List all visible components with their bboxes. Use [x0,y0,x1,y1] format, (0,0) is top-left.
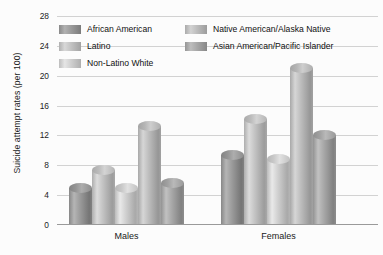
bar-cap [115,183,138,193]
bar-body [267,159,290,225]
legend-label: Asian American/Pacific Islander [213,42,333,51]
y-tick-label: 20 [19,71,49,81]
bar-cap [267,154,290,164]
y-tick-label: 4 [19,190,49,200]
legend-swatch [59,25,81,34]
bar-cap [69,183,92,193]
bar [115,183,138,225]
legend-swatch [185,42,207,51]
bar-body [115,188,138,225]
bar-body [69,188,92,225]
legend-item[interactable]: Asian American/Pacific Islander [185,42,333,51]
x-axis-label-males: Males [82,231,172,241]
y-tick-label: 28 [19,11,49,21]
legend-swatch [59,42,81,51]
bar-cap [92,165,115,175]
legend-swatch [59,59,81,68]
bar [290,63,313,225]
bar-body [138,126,161,225]
chart-legend: African AmericanLatinoNon-Latino WhiteNa… [59,25,359,77]
bar [161,178,184,225]
bar [313,130,336,225]
bar [244,114,267,225]
bar-body [313,135,336,225]
y-tick-label: 0 [19,220,49,230]
legend-item[interactable]: Latino [59,42,110,51]
bar-body [161,183,184,225]
y-tick-label: 12 [19,130,49,140]
x-axis-label-females: Females [234,231,324,241]
y-tick-label: 8 [19,160,49,170]
bar [92,165,115,225]
bar-chart: Suicide attempt rates (per 100) 04812162… [0,0,383,255]
y-tick-label: 24 [19,41,49,51]
bar-body [290,68,313,225]
bar-cap [221,150,244,160]
legend-label: Latino [87,42,110,51]
legend-label: African American [87,25,152,34]
bar [138,121,161,225]
bar-body [244,119,267,225]
axis-baseline [57,224,378,225]
bar-body [221,155,244,225]
legend-label: Non-Latino White [87,59,153,68]
legend-label: Native American/Alaska Native [213,25,331,34]
bar-cap [244,114,267,124]
legend-item[interactable]: Non-Latino White [59,59,153,68]
legend-item[interactable]: African American [59,25,152,34]
bar [267,154,290,225]
legend-swatch [185,25,207,34]
bar [221,150,244,225]
legend-item[interactable]: Native American/Alaska Native [185,25,331,34]
bar-body [92,170,115,225]
bar [69,183,92,225]
y-tick-label: 16 [19,101,49,111]
